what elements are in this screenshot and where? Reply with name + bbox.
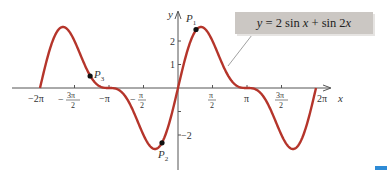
x-tick-label-3pi-2-num: 3π [276, 91, 284, 100]
equation-label: y = 2 sin x + sin 2x [235, 12, 373, 34]
x-tick-label-2pi: 2π [317, 93, 327, 104]
x-tick-minus-sign: − [58, 94, 64, 105]
equation-leader-line [228, 35, 252, 66]
x-tick-label-neg-3pi-2-den: 2 [71, 101, 75, 110]
point-p2-label: P2 [157, 148, 169, 163]
x-tick-minus-sign-2: − [130, 94, 136, 105]
equation-legend-box: y = 2 sin x + sin 2x [235, 12, 373, 34]
point-p3-marker [88, 73, 93, 78]
accent-mark [375, 166, 387, 170]
x-tick-label-neg-pi-2-num: π [139, 91, 143, 100]
y-tick-label-neg2: −2 [181, 130, 192, 141]
x-axis-label: x [337, 92, 343, 104]
y-tick-label-2: 2 [170, 36, 175, 47]
point-p1-label: P1 [185, 12, 197, 27]
x-tick-label-3pi-2-den: 2 [279, 101, 283, 110]
point-p1-marker [193, 27, 198, 32]
y-tick-label-1: 1 [170, 59, 175, 70]
x-tick-label-pi-2-den: 2 [210, 101, 214, 110]
point-p2-marker [159, 140, 164, 145]
x-tick-label-pi-2-num: π [209, 91, 213, 100]
x-tick-label-neg-2pi: −2π [28, 93, 44, 104]
x-tick-label-neg-pi: −π [99, 93, 110, 104]
x-tick-label-neg-3pi-2-num: 3π [67, 91, 75, 100]
x-tick-label-pi: π [244, 93, 249, 104]
y-axis-label: y [167, 8, 173, 20]
x-tick-label-neg-pi-2-den: 2 [140, 101, 144, 110]
